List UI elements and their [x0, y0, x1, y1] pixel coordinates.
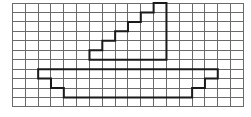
sailboat-grid-diagram — [0, 0, 251, 117]
background — [0, 0, 251, 117]
